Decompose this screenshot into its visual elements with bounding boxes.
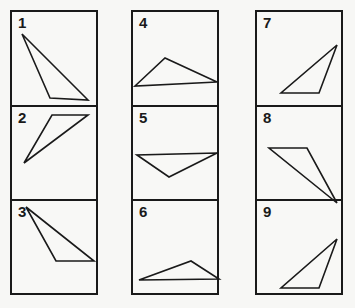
panel-3: 3 — [12, 199, 96, 297]
panel-column-3: 789 — [255, 10, 343, 295]
triangle-shape — [133, 12, 217, 105]
panel-column-1: 123 — [10, 10, 98, 295]
panel-5: 5 — [133, 105, 217, 199]
panel-1: 1 — [12, 12, 96, 105]
triangle-shape — [12, 12, 96, 105]
panel-2: 2 — [12, 105, 96, 199]
triangle-shape — [257, 201, 341, 299]
panel-9: 9 — [257, 199, 341, 297]
triangle-shape — [12, 201, 96, 299]
triangle-shape — [12, 107, 96, 201]
panel-7: 7 — [257, 12, 341, 105]
panel-column-2: 456 — [131, 10, 219, 295]
panel-8: 8 — [257, 105, 341, 199]
triangle-shape — [133, 107, 217, 201]
triangle-shape — [133, 201, 217, 299]
panel-6: 6 — [133, 199, 217, 297]
panel-4: 4 — [133, 12, 217, 105]
triangle-shape — [257, 12, 341, 105]
triangle-shape — [257, 107, 341, 201]
